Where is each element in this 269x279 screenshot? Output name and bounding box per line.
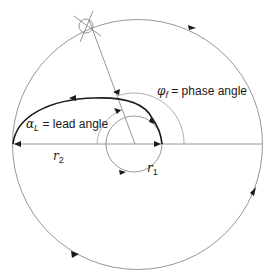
diagram-canvas <box>0 0 269 279</box>
phase-text: = phase angle <box>171 84 247 98</box>
r2-label: r2 <box>53 150 64 162</box>
r2-symbol: r <box>53 149 59 163</box>
r1-subscript: 1 <box>153 167 158 177</box>
r2-subscript: 2 <box>59 155 64 165</box>
phase-subscript: f <box>165 90 168 100</box>
arrow-right-lower <box>250 187 256 196</box>
arrow-r1-right <box>154 141 161 147</box>
phase-angle-label: φf = phase angle <box>157 85 247 97</box>
r1-symbol: r <box>147 161 153 175</box>
outer-circle <box>13 20 263 270</box>
arrow-top-right <box>188 25 196 30</box>
r1-label: r1 <box>147 162 158 174</box>
lead-symbol: α <box>26 117 34 131</box>
arrow-r2-left <box>14 141 21 147</box>
arrow-bottom-left <box>71 251 79 258</box>
diagram: φf = phase angle αL = lead angle r2 r1 <box>0 0 269 279</box>
lead-subscript: L <box>34 123 39 133</box>
lead-text: = lead angle <box>42 117 108 131</box>
lead-angle-label: αL = lead angle <box>26 118 108 130</box>
